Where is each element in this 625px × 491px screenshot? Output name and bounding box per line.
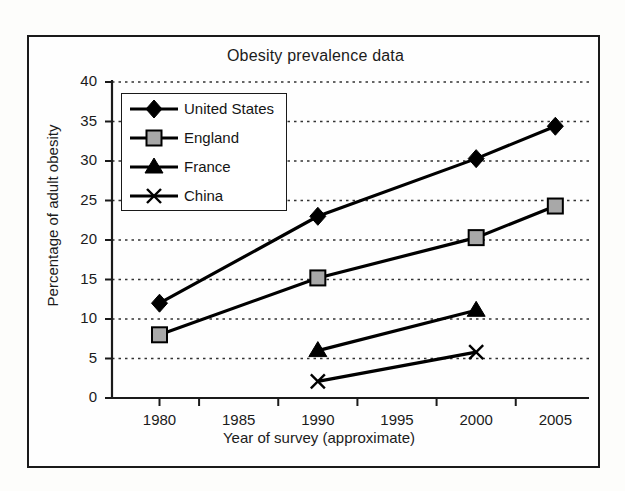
y-tick-label: 40 bbox=[65, 72, 97, 89]
gray-square-glyph bbox=[147, 130, 162, 145]
plot-area bbox=[29, 37, 602, 470]
data-point-united-states bbox=[310, 207, 326, 225]
legend-label: United States bbox=[184, 100, 274, 117]
screenshot-page: Obesity prevalence data Percentage of ad… bbox=[0, 0, 625, 491]
x-tick-label: 1980 bbox=[130, 411, 190, 428]
data-point-england bbox=[469, 230, 484, 245]
legend-item-france[interactable]: France bbox=[122, 152, 286, 181]
y-tick-label: 30 bbox=[65, 151, 97, 168]
data-point-united-states bbox=[547, 117, 563, 135]
x-tick-label: 2005 bbox=[525, 411, 585, 428]
y-tick-label: 15 bbox=[65, 270, 97, 287]
x-tick-label: 1985 bbox=[209, 411, 269, 428]
legend-item-united-states[interactable]: United States bbox=[122, 94, 286, 123]
data-point-england bbox=[548, 199, 563, 214]
y-tick-label: 35 bbox=[65, 112, 97, 129]
chart-legend: United StatesEnglandFranceChina bbox=[121, 93, 287, 211]
gray-square-icon bbox=[128, 127, 180, 149]
legend-item-china[interactable]: China bbox=[122, 181, 286, 210]
cross-x-icon bbox=[128, 185, 180, 207]
y-tick-label: 25 bbox=[65, 191, 97, 208]
series-line-france bbox=[318, 310, 476, 350]
data-point-france bbox=[467, 301, 485, 316]
figure-frame: Obesity prevalence data Percentage of ad… bbox=[27, 35, 600, 468]
y-tick-label: 20 bbox=[65, 230, 97, 247]
data-point-england bbox=[310, 270, 325, 285]
filled-diamond-glyph bbox=[146, 100, 162, 118]
y-tick-label: 0 bbox=[65, 388, 97, 405]
data-point-united-states bbox=[468, 150, 484, 168]
legend-label: England bbox=[184, 129, 239, 146]
legend-label: China bbox=[184, 187, 223, 204]
series-line-china bbox=[318, 352, 476, 381]
x-tick-label: 1990 bbox=[288, 411, 348, 428]
legend-label: France bbox=[184, 158, 231, 175]
data-point-united-states bbox=[152, 294, 168, 312]
y-tick-label: 10 bbox=[65, 309, 97, 326]
filled-triangle-icon bbox=[128, 156, 180, 178]
legend-item-england[interactable]: England bbox=[122, 123, 286, 152]
y-tick-label: 5 bbox=[65, 349, 97, 366]
filled-diamond-icon bbox=[128, 98, 180, 120]
x-tick-label: 1995 bbox=[367, 411, 427, 428]
data-point-england bbox=[152, 327, 167, 342]
x-tick-label: 2000 bbox=[446, 411, 506, 428]
